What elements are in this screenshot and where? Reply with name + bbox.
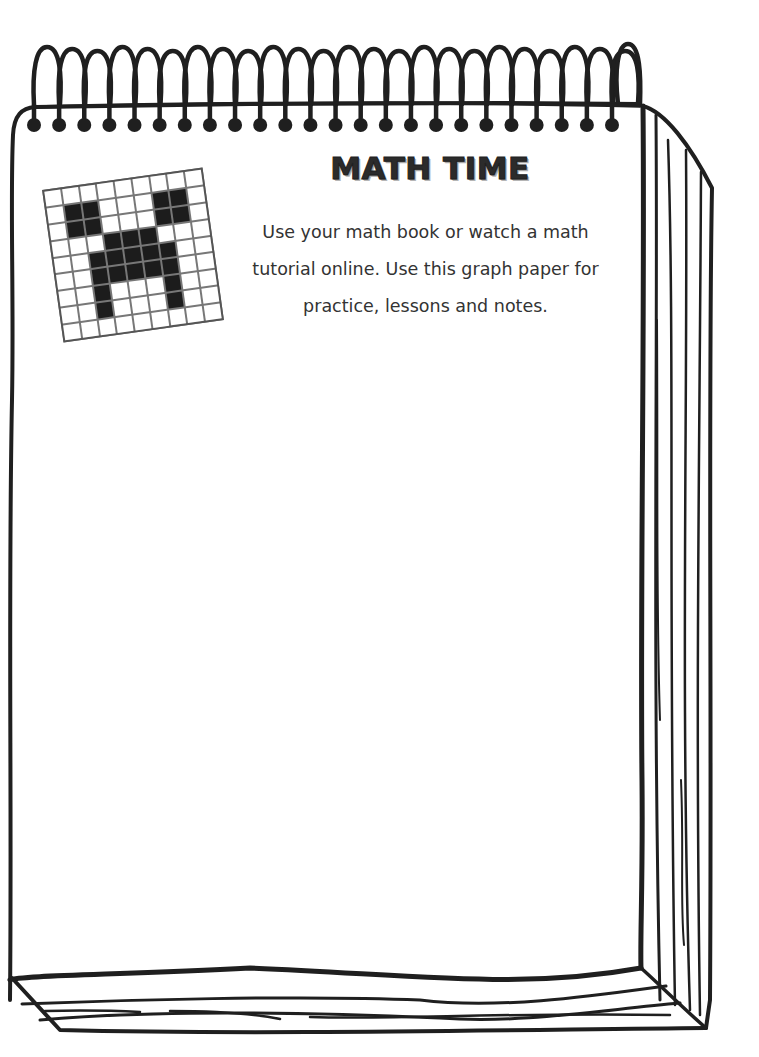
grid-cell	[137, 211, 155, 228]
instruction-line: practice, lessons and notes.	[228, 288, 623, 325]
grid-cell	[111, 282, 129, 299]
grid-cell	[169, 308, 187, 325]
grid-cell	[51, 240, 69, 257]
grid-cell	[166, 292, 184, 309]
grid-cell	[81, 321, 99, 338]
grid-cell	[142, 244, 160, 261]
grid-cell	[126, 263, 144, 280]
instruction-line: tutorial online. Use this graph paper fo…	[228, 251, 623, 288]
grid-cell	[129, 280, 147, 297]
instruction-line: Use your math book or watch a math	[228, 214, 623, 251]
grid-cell	[168, 172, 186, 189]
grid-cell	[94, 285, 112, 302]
grid-cell	[96, 302, 114, 319]
grid-cell	[199, 270, 217, 287]
creeper-face-grid-icon	[42, 167, 224, 342]
grid-cell	[175, 222, 193, 239]
grid-cell	[64, 204, 82, 221]
grid-cell	[192, 220, 210, 237]
worksheet-title: MATH TIME	[300, 150, 560, 186]
grid-cell	[89, 251, 107, 268]
grid-cell	[117, 196, 135, 213]
grid-cell	[114, 299, 132, 316]
grid-cell	[146, 278, 164, 295]
grid-cell	[76, 287, 94, 304]
grid-cell	[135, 194, 153, 211]
grid-cell	[157, 225, 175, 242]
grid-cell	[144, 261, 162, 278]
grid-cell	[177, 239, 195, 256]
grid-cell	[155, 208, 173, 225]
grid-cell	[104, 232, 122, 249]
grid-cell	[99, 199, 117, 216]
grid-cell	[67, 220, 85, 237]
grid-cell	[97, 182, 115, 199]
grid-cell	[102, 216, 120, 233]
grid-cell	[82, 201, 100, 218]
grid-cell	[182, 273, 200, 290]
grid-cell	[152, 191, 170, 208]
grid-cell	[185, 170, 203, 187]
grid-cell	[87, 235, 105, 252]
grid-cell	[186, 306, 204, 323]
grid-cell	[61, 307, 79, 324]
grid-cell	[162, 258, 180, 275]
grid-cell	[49, 223, 67, 240]
grid-cell	[58, 290, 76, 307]
grid-cell	[134, 313, 152, 330]
grid-cell	[197, 253, 215, 270]
grid-cell	[179, 256, 197, 273]
grid-cell	[71, 254, 89, 271]
grid-cell	[204, 304, 222, 321]
grid-cell	[69, 237, 87, 254]
grid-cell	[159, 242, 177, 259]
grid-cell	[109, 266, 127, 283]
grid-cell	[188, 186, 206, 203]
grid-cell	[80, 185, 98, 202]
grid-cell	[172, 206, 190, 223]
grid-cell	[84, 218, 102, 235]
grid-cell	[132, 177, 150, 194]
grid-cell	[44, 190, 62, 207]
grid-cell	[149, 294, 167, 311]
grid-cell	[131, 297, 149, 314]
grid-cell	[62, 187, 80, 204]
grid-cell	[184, 289, 202, 306]
grid-cell	[91, 268, 109, 285]
grid-cell	[195, 237, 213, 254]
grid-cell	[202, 287, 220, 304]
grid-cell	[170, 189, 188, 206]
grid-cell	[116, 316, 134, 333]
grid-cell	[78, 304, 96, 321]
grid-cell	[122, 230, 140, 247]
worksheet-instructions: Use your math book or watch a math tutor…	[228, 214, 623, 325]
grid-cell	[139, 227, 157, 244]
grid-cell	[47, 206, 65, 223]
grid-cell	[124, 247, 142, 264]
grid-cell	[56, 273, 74, 290]
grid-cell	[190, 203, 208, 220]
grid-cell	[74, 271, 92, 288]
grid-cell	[63, 323, 81, 340]
grid-cell	[107, 249, 125, 266]
grid-cell	[151, 311, 169, 328]
grid-cell	[54, 256, 72, 273]
grid-cell	[150, 175, 168, 192]
grid-cell	[119, 213, 137, 230]
grid-cell	[164, 275, 182, 292]
grid-cell	[115, 180, 133, 197]
grid-cell	[98, 318, 116, 335]
